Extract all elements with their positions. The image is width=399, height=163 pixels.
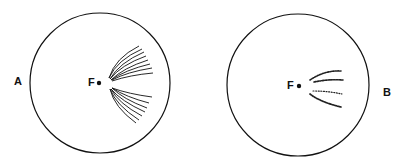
panel-b-dotted-streaks <box>310 71 343 107</box>
panel-b <box>227 14 369 156</box>
panel-a-focus-label: F <box>88 76 95 88</box>
diagram-canvas <box>0 0 399 163</box>
panel-a-lower-fan <box>110 88 152 123</box>
panel-b-label: B <box>383 86 391 98</box>
panel-a-focus-dot <box>97 81 101 85</box>
panel-a-upper-fan <box>109 46 153 81</box>
panel-a <box>30 13 170 153</box>
panel-a-label: A <box>14 75 22 87</box>
panel-b-focus-label: F <box>287 79 294 91</box>
panel-b-focus-dot <box>297 84 301 88</box>
